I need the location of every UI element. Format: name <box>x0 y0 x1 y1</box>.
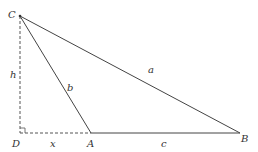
segment-a <box>20 16 240 133</box>
right-angle-marker <box>20 128 25 133</box>
label-C: C <box>8 9 16 20</box>
segment-b <box>20 16 91 133</box>
label-D: D <box>11 138 20 149</box>
vertex-c-dot <box>19 15 22 18</box>
label-a: a <box>148 64 154 75</box>
label-B: B <box>240 133 248 144</box>
triangle-diagram: C h b a D x A c B <box>0 0 258 152</box>
label-c: c <box>161 138 167 149</box>
label-b: b <box>67 82 73 93</box>
label-h: h <box>10 69 16 80</box>
label-A: A <box>86 138 94 149</box>
label-x: x <box>50 138 56 149</box>
